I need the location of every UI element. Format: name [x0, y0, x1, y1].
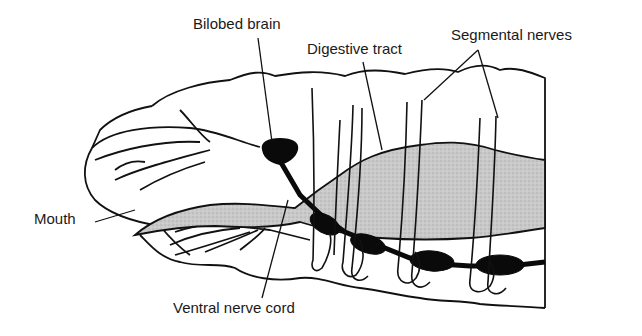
- label-mouth: Mouth: [34, 211, 76, 226]
- bilobed-brain: [262, 138, 299, 165]
- label-ventral-nerve-cord: Ventral nerve cord: [173, 300, 295, 315]
- label-bilobed-brain: Bilobed brain: [193, 16, 281, 31]
- label-digestive-tract: Digestive tract: [307, 41, 402, 56]
- digestive-tract: [135, 143, 545, 240]
- label-segmental-nerves: Segmental nerves: [451, 27, 572, 42]
